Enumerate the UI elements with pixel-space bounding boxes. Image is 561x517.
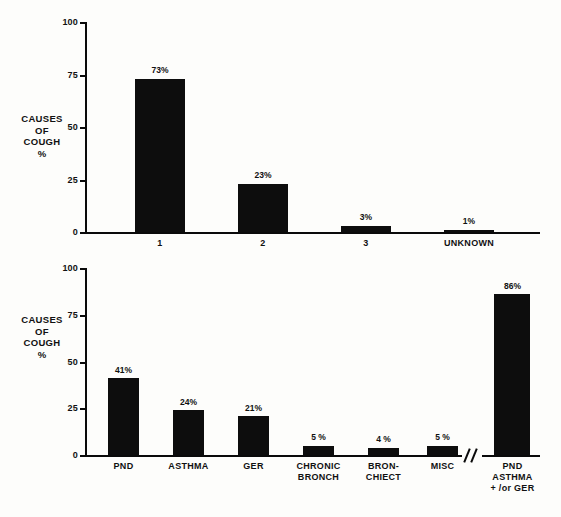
causes-of-cough-chart-top: 100 75 50 25 0 CAUSES OF COUGH % 73% 23%… <box>0 0 561 258</box>
bar-pnd-asthma-or-ger <box>494 294 530 455</box>
y-tick-label-top-25: 25 <box>52 175 78 185</box>
y-tick-bottom-50 <box>80 362 86 364</box>
plot-area-top: 100 75 50 25 0 CAUSES OF COUGH % 73% 23%… <box>0 0 561 258</box>
bar-value-category-2: 23% <box>233 170 293 180</box>
x-tick-label-pnd-asthma-or-ger: PND ASTHMA + /or GER <box>472 461 553 494</box>
causes-of-cough-chart-bottom: 100 75 50 25 0 CAUSES OF COUGH % 41% 24%… <box>0 258 561 517</box>
x-tick-label-line: CHIECT <box>343 472 424 483</box>
x-tick-label-line: + /or GER <box>472 483 553 494</box>
bar-misc <box>427 446 458 455</box>
x-tick-label-line: UNKNOWN <box>429 238 509 249</box>
bar-value-ger: 21% <box>223 403 284 413</box>
y-axis-title-line-1: CAUSES <box>8 314 76 326</box>
bar-value-category-unknown: 1% <box>439 216 499 226</box>
y-axis-title-top: CAUSES OF COUGH % <box>8 113 76 159</box>
x-tick-label-line: PND <box>472 461 553 472</box>
x-tick-label-category-2: 2 <box>223 238 303 249</box>
y-tick-label-top-75: 75 <box>52 70 78 80</box>
y-tick-top-50 <box>80 127 86 129</box>
y-tick-label-top-100: 100 <box>52 17 78 27</box>
y-tick-bottom-25 <box>80 408 86 410</box>
y-tick-label-top-0: 0 <box>52 227 78 237</box>
bar-value-misc: 5 % <box>412 432 473 442</box>
y-tick-bottom-75 <box>80 315 86 317</box>
bar-value-category-3: 3% <box>336 212 396 222</box>
bar-value-pnd-asthma-or-ger: 86% <box>482 281 543 291</box>
bar-category-unknown <box>444 230 494 232</box>
bar-value-category-1: 73% <box>130 65 190 75</box>
y-axis-title-bottom: CAUSES OF COUGH % <box>8 314 76 360</box>
y-tick-top-75 <box>80 75 86 77</box>
y-tick-top-25 <box>80 180 86 182</box>
bar-ger <box>238 416 269 455</box>
x-tick-label-category-1: 1 <box>120 238 200 249</box>
y-tick-bottom-0 <box>80 455 86 457</box>
bar-asthma <box>173 410 204 455</box>
bar-value-chronic-bronch: 5 % <box>288 432 349 442</box>
y-axis-title-line-3: COUGH <box>8 136 76 148</box>
y-axis-title-line-1: CAUSES <box>8 113 76 125</box>
x-tick-label-line: 1 <box>120 238 200 249</box>
y-axis-title-line-2: OF <box>8 125 76 137</box>
x-tick-label-line: MISC <box>402 461 483 472</box>
bar-pnd <box>108 378 139 455</box>
x-tick-label-category-unknown: UNKNOWN <box>429 238 509 249</box>
y-tick-label-bottom-100: 100 <box>52 263 78 273</box>
y-axis-title-line-4: % <box>8 349 76 361</box>
bar-bronchiect <box>368 448 399 456</box>
y-tick-top-100 <box>80 22 86 24</box>
x-tick-label-line: 2 <box>223 238 303 249</box>
y-tick-label-bottom-0: 0 <box>52 450 78 460</box>
bar-category-3 <box>341 226 391 232</box>
plot-area-bottom: 100 75 50 25 0 CAUSES OF COUGH % 41% 24%… <box>0 258 561 517</box>
bar-chronic-bronch <box>303 446 334 455</box>
x-tick-label-line: ASTHMA <box>472 472 553 483</box>
bar-value-pnd: 41% <box>93 365 154 375</box>
bar-value-bronchiect: 4 % <box>353 434 414 444</box>
y-tick-top-0 <box>80 232 86 234</box>
x-tick-label-category-3: 3 <box>326 238 406 249</box>
x-tick-label-misc: MISC <box>402 461 483 472</box>
bar-value-asthma: 24% <box>158 397 219 407</box>
bar-category-2 <box>238 184 288 232</box>
y-tick-bottom-100 <box>80 268 86 270</box>
y-axis-title-line-4: % <box>8 148 76 160</box>
x-tick-label-line: 3 <box>326 238 406 249</box>
y-axis-title-line-3: COUGH <box>8 337 76 349</box>
bar-category-1 <box>135 79 185 232</box>
x-axis-line-top <box>85 232 540 234</box>
y-axis-title-line-2: OF <box>8 326 76 338</box>
y-tick-label-bottom-25: 25 <box>52 403 78 413</box>
